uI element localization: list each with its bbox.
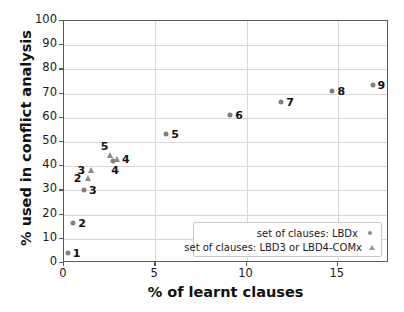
legend-item-label: set of clauses: LBDx <box>257 228 358 239</box>
data-point-label: 3 <box>77 165 85 176</box>
legend-item-label: set of clauses: LBD3 or LBD4-COMx <box>184 242 362 253</box>
data-point <box>370 83 375 88</box>
triangle-icon <box>369 245 375 250</box>
data-point-label: 1 <box>73 248 81 259</box>
data-point <box>65 251 70 256</box>
y-tick-label: 70 <box>42 87 57 99</box>
data-point-label: 4 <box>111 165 119 176</box>
data-point <box>279 100 284 105</box>
x-tick-label: 5 <box>151 268 158 280</box>
data-point <box>330 89 335 94</box>
x-tick-label: 0 <box>59 268 66 280</box>
scatter-chart-figure: 1234567892345 0102030405060708090100 051… <box>0 0 404 312</box>
data-point-label: 7 <box>286 97 294 108</box>
y-tick-label: 0 <box>50 256 57 268</box>
data-point <box>82 188 87 193</box>
data-point <box>114 156 120 162</box>
y-tick-mark <box>59 44 63 45</box>
data-point <box>228 113 233 118</box>
data-point-label: 5 <box>101 141 109 152</box>
circle-icon <box>365 231 375 236</box>
y-tick-label: 30 <box>42 183 57 195</box>
y-tick-label: 100 <box>35 14 57 26</box>
legend-item-lbdx: set of clauses: LBDx <box>199 226 375 240</box>
data-point-label: 2 <box>78 218 86 229</box>
legend-item-lbd3-lbd4com: set of clauses: LBD3 or LBD4-COMx <box>199 240 375 254</box>
data-point-label: 6 <box>235 110 243 121</box>
y-tick-label: 90 <box>42 38 57 50</box>
y-tick-mark <box>59 238 63 239</box>
y-tick-mark <box>59 165 63 166</box>
y-tick-mark <box>59 117 63 118</box>
data-point-label: 5 <box>171 129 179 140</box>
y-axis-label: % used in conflict analysis <box>18 8 34 268</box>
data-point-label: 9 <box>378 80 386 91</box>
gridline <box>155 21 156 261</box>
y-tick-label: 60 <box>42 111 57 123</box>
y-tick-label: 80 <box>42 62 57 74</box>
data-point-label: 8 <box>337 86 345 97</box>
y-tick-mark <box>59 189 63 190</box>
y-tick-label: 10 <box>42 232 57 244</box>
y-tick-mark <box>59 214 63 215</box>
y-tick-mark <box>59 20 63 21</box>
data-point <box>88 167 94 173</box>
data-point-label: 3 <box>89 185 97 196</box>
y-tick-label: 40 <box>42 159 57 171</box>
data-point <box>164 131 169 136</box>
chart-legend: set of clauses: LBDx set of clauses: LBD… <box>193 222 382 257</box>
data-point <box>85 175 91 181</box>
x-tick-label: 10 <box>238 268 253 280</box>
y-tick-mark <box>59 93 63 94</box>
y-tick-label: 20 <box>42 208 57 220</box>
y-tick-mark <box>59 141 63 142</box>
y-tick-label: 50 <box>42 135 57 147</box>
x-axis-label: % of learnt clauses <box>63 284 388 300</box>
x-tick-label: 15 <box>330 268 345 280</box>
data-point <box>71 221 76 226</box>
data-point <box>107 152 113 158</box>
y-tick-mark <box>59 68 63 69</box>
data-point-label: 4 <box>122 154 130 165</box>
